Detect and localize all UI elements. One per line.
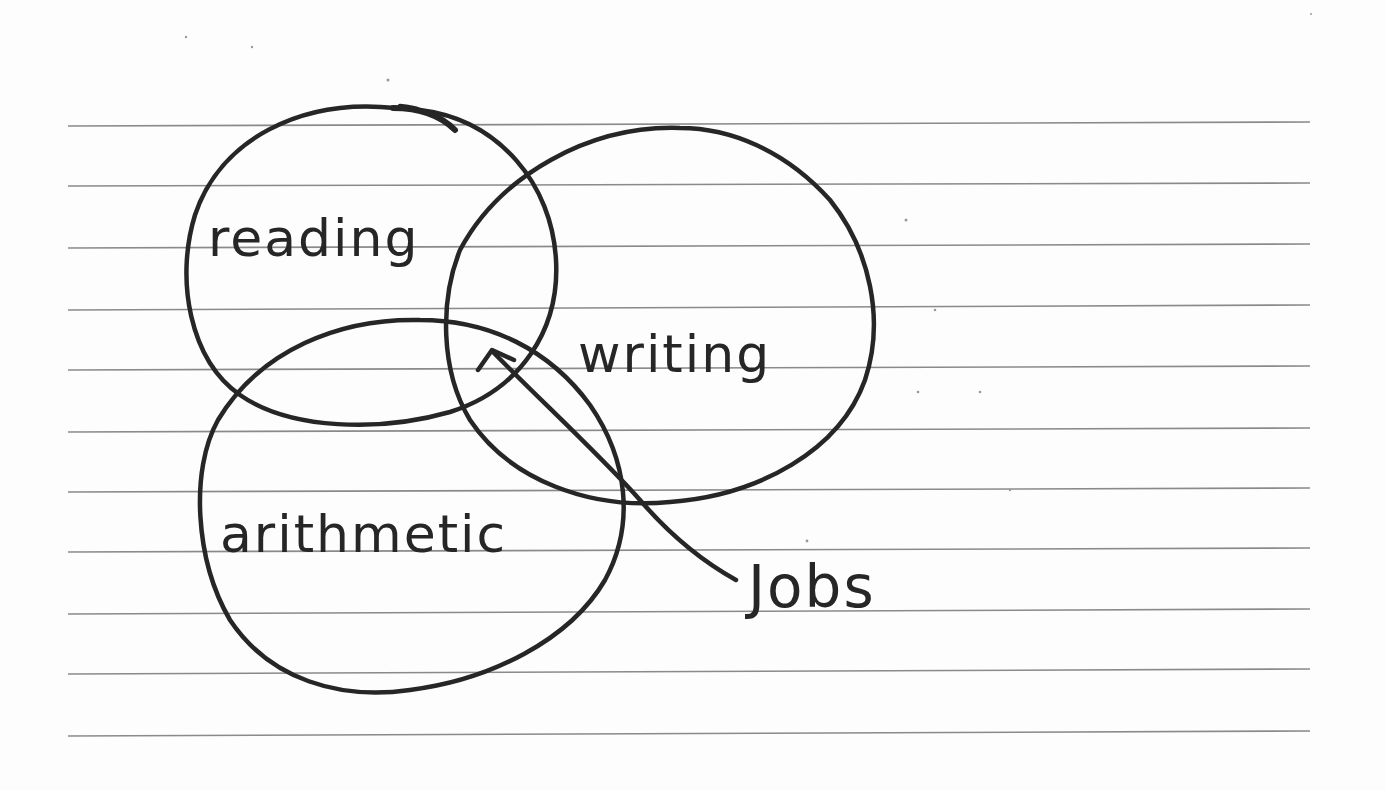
paper-specks: [185, 13, 1312, 542]
venn-diagram-drawing: [0, 0, 1386, 790]
reading-circle-overstroke: [393, 108, 455, 130]
jobs-label: Jobs: [748, 558, 876, 616]
lined-paper: reading writing arithmetic Jobs: [0, 0, 1386, 790]
writing-label: writing: [578, 328, 771, 380]
reading-label: reading: [208, 212, 420, 264]
arithmetic-label: arithmetic: [220, 508, 507, 560]
